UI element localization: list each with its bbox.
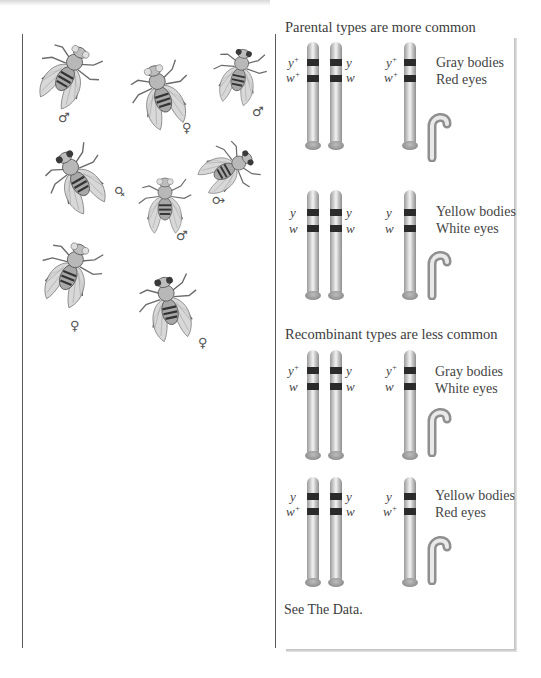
allele-label: y bbox=[290, 206, 296, 219]
left-divider bbox=[22, 34, 23, 648]
x-chromosome-female-right bbox=[330, 477, 342, 589]
fly-illustration-male bbox=[192, 132, 272, 202]
allele-label: w bbox=[289, 222, 298, 235]
fly-illustration-male bbox=[205, 36, 275, 106]
allele-label: y bbox=[346, 364, 352, 377]
y-chromosome-icon bbox=[425, 407, 455, 457]
female-symbol-icon: ♀ bbox=[70, 318, 80, 333]
allele-label: w+ bbox=[383, 505, 397, 518]
allele-label: y+ bbox=[288, 56, 299, 69]
allele-label: y bbox=[346, 56, 352, 69]
allele-label: w bbox=[346, 505, 355, 518]
fly-illustration-female bbox=[30, 135, 120, 215]
allele-label: y bbox=[290, 490, 296, 503]
x-chromosome-female-right bbox=[330, 190, 342, 302]
y-chromosome-icon bbox=[425, 250, 455, 300]
male-symbol-icon: ♂ bbox=[252, 104, 264, 119]
panel-shadow-bottom bbox=[286, 649, 516, 652]
phenotype-label: Yellow bodies Red eyes bbox=[435, 487, 515, 521]
x-chromosome-female-left bbox=[307, 477, 319, 589]
allele-label: w bbox=[346, 380, 355, 393]
phenotype-label: Gray bodies Red eyes bbox=[436, 54, 504, 88]
section-title-recombinant: Recombinant types are less common bbox=[285, 326, 498, 343]
x-chromosome-male bbox=[404, 477, 416, 589]
x-chromosome-male bbox=[404, 42, 416, 152]
allele-label: w bbox=[346, 222, 355, 235]
phenotype-label: Yellow bodies White eyes bbox=[436, 203, 516, 237]
allele-label: y+ bbox=[386, 364, 397, 377]
allele-label: y+ bbox=[386, 56, 397, 69]
female-symbol-icon: ♀ bbox=[182, 120, 192, 135]
allele-label: w bbox=[385, 380, 394, 393]
see-the-data-link[interactable]: See The Data. bbox=[284, 602, 363, 618]
x-chromosome-female-left bbox=[307, 42, 319, 152]
allele-label: y bbox=[386, 206, 392, 219]
x-chromosome-female-left bbox=[307, 350, 319, 462]
fly-illustration-female bbox=[32, 228, 112, 318]
allele-label: w bbox=[289, 380, 298, 393]
female-symbol-icon: ♀ bbox=[198, 335, 208, 350]
x-chromosome-male bbox=[404, 350, 416, 462]
fly-illustration-male bbox=[30, 30, 110, 110]
x-chromosome-male bbox=[404, 190, 416, 302]
header-strip bbox=[0, 0, 270, 6]
allele-label: y+ bbox=[288, 364, 299, 377]
male-symbol-icon: ♂ bbox=[176, 228, 188, 243]
allele-label: y bbox=[346, 490, 352, 503]
male-symbol-icon: ♂ bbox=[58, 110, 70, 125]
y-chromosome-icon bbox=[425, 112, 455, 162]
section-title-parental: Parental types are more common bbox=[285, 19, 476, 36]
allele-label: w+ bbox=[286, 71, 300, 84]
allele-label: w bbox=[385, 222, 394, 235]
x-chromosome-female-right bbox=[330, 350, 342, 462]
allele-label: y bbox=[346, 206, 352, 219]
x-chromosome-female-left bbox=[307, 190, 319, 302]
fly-illustration-male bbox=[130, 160, 200, 240]
fly-illustration-female bbox=[128, 262, 208, 352]
allele-label: y bbox=[386, 490, 392, 503]
allele-label: w bbox=[346, 71, 355, 84]
allele-label: w+ bbox=[286, 505, 300, 518]
phenotype-label: Gray bodies White eyes bbox=[435, 363, 503, 397]
panel-divider bbox=[275, 34, 276, 648]
panel-shadow-right bbox=[514, 38, 517, 652]
y-chromosome-icon bbox=[425, 535, 455, 585]
allele-label: w+ bbox=[384, 71, 398, 84]
x-chromosome-female-right bbox=[330, 42, 342, 152]
